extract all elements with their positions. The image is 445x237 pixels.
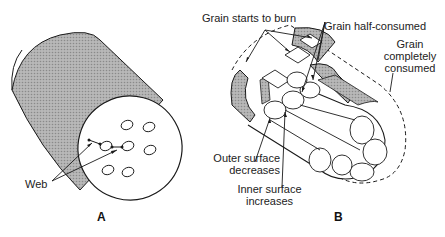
grain-starts-label: Grain starts to burn (202, 12, 296, 24)
inner-surface-label: Inner surface increases (232, 183, 307, 207)
figure-a-caption: A (97, 210, 106, 224)
grain-completely-consumed-label: Grain completely consumed (380, 38, 440, 74)
figure-a-cylinder (12, 32, 201, 219)
web-label: Web (25, 178, 47, 190)
grain-half-consumed-label: Grain half-consumed (324, 20, 426, 32)
outer-surface-label: Outer surface decreases (205, 152, 280, 176)
figure-b-caption: B (334, 210, 343, 224)
diagram-canvas (0, 0, 445, 237)
